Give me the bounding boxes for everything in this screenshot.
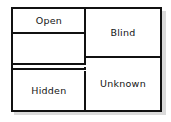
quadrant-blind-label: Blind — [110, 28, 135, 38]
transition-arrow-band — [13, 34, 86, 65]
divider-gutter — [13, 67, 86, 70]
quadrant-open: Open — [13, 9, 86, 34]
quadrant-unknown-label: Unknown — [100, 79, 146, 89]
quadrant-blind: Blind — [86, 9, 159, 58]
johari-window-diagram: Open Hidden Blind Unknown — [0, 0, 171, 122]
quadrant-unknown: Unknown — [86, 58, 159, 109]
quadrant-hidden-label: Hidden — [31, 86, 66, 96]
quadrant-open-label: Open — [36, 16, 62, 26]
quadrant-hidden: Hidden — [13, 71, 86, 110]
